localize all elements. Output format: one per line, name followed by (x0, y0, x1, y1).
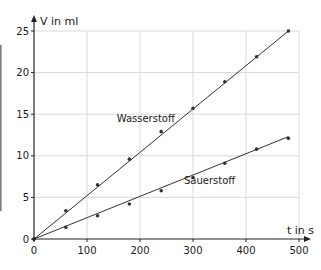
data-point (159, 189, 163, 193)
y-axis-arrow-icon (31, 15, 37, 22)
y-tick-label: 20 (16, 67, 29, 78)
axes (31, 15, 311, 242)
data-point (64, 226, 68, 230)
x-tick-label: 300 (183, 245, 202, 256)
series-label-sauerstoff: Sauerstoff (184, 175, 236, 186)
data-point (223, 80, 227, 84)
data-point (64, 209, 68, 213)
data-point (159, 130, 163, 134)
data-point (128, 157, 132, 161)
x-tick-label: 400 (236, 245, 255, 256)
y-tick-label: 15 (16, 109, 29, 120)
data-point (96, 214, 100, 218)
y-tick-label: 5 (23, 192, 29, 203)
x-tick-label: 200 (130, 245, 149, 256)
data-point (96, 183, 100, 187)
series-label-wasserstoff: Wasserstoff (117, 113, 176, 124)
tick-labels: 01002003004005000510152025 (16, 26, 308, 257)
fit-line (34, 137, 288, 239)
data-point (128, 202, 132, 206)
line-chart: 01002003004005000510152025 V in ml t in … (0, 0, 321, 270)
y-axis-label: V in ml (40, 15, 78, 28)
grid-lines (34, 31, 299, 239)
x-axis-label: t in s (287, 224, 314, 237)
data-point (223, 161, 227, 165)
x-tick-label: 500 (289, 245, 308, 256)
x-tick-label: 100 (77, 245, 96, 256)
data-point (287, 29, 291, 33)
data-point (255, 55, 259, 59)
x-tick-label: 0 (31, 245, 37, 256)
fit-lines (34, 31, 288, 239)
y-tick-label: 25 (16, 26, 29, 37)
data-point (255, 147, 259, 151)
y-tick-label: 0 (23, 234, 29, 245)
data-point (191, 107, 195, 111)
fit-line (34, 31, 288, 239)
data-point (287, 137, 291, 141)
y-tick-label: 10 (16, 150, 29, 161)
